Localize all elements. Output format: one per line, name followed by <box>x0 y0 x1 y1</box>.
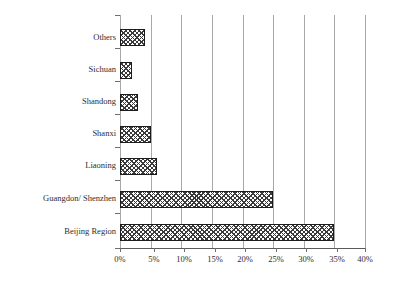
bar-chart: Others Sichuan Shandong Shanxi Liaoning … <box>0 0 403 285</box>
x-axis-line <box>120 248 366 249</box>
category-label-guangdon-shenzhen: Guangdon/ Shenzhen <box>4 193 116 203</box>
x-tick-label-25: 25% <box>261 254 291 264</box>
x-axis-tick <box>184 248 185 252</box>
bar-shandong <box>120 94 138 111</box>
gridline-15 <box>212 15 213 248</box>
plot-area <box>120 15 365 248</box>
gridline-20 <box>243 15 244 248</box>
gridline-25 <box>273 15 274 248</box>
x-axis-tick <box>154 248 155 252</box>
category-label-beijing-region: Beijing Region <box>4 226 116 236</box>
x-tick-label-35: 35% <box>322 254 352 264</box>
category-label-liaoning: Liaoning <box>4 160 116 170</box>
x-axis-tick <box>365 248 366 252</box>
category-label-sichuan: Sichuan <box>4 64 116 74</box>
x-tick-label-40: 40% <box>350 254 380 264</box>
x-tick-label-10: 10% <box>169 254 199 264</box>
gridline-30 <box>304 15 305 248</box>
bar-liaoning <box>120 158 157 175</box>
x-axis-tick <box>215 248 216 252</box>
category-label-shanxi: Shanxi <box>4 128 116 138</box>
x-axis-tick <box>245 248 246 252</box>
gridline-40 <box>365 15 366 248</box>
bar-sichuan <box>120 62 132 79</box>
x-axis-tick <box>306 248 307 252</box>
x-tick-label-15: 15% <box>200 254 230 264</box>
bar-shanxi <box>120 126 151 143</box>
x-axis-tick <box>337 248 338 252</box>
bar-beijing-region <box>120 224 334 241</box>
x-tick-label-30: 30% <box>291 254 321 264</box>
gridline-5 <box>151 15 152 248</box>
x-axis-tick <box>276 248 277 252</box>
category-label-others: Others <box>4 32 116 42</box>
x-axis-tick <box>120 248 121 252</box>
gridline-35 <box>334 15 335 248</box>
x-tick-label-5: 5% <box>139 254 169 264</box>
x-tick-label-20: 20% <box>230 254 260 264</box>
category-label-shandong: Shandong <box>4 96 116 106</box>
bar-others <box>120 29 145 46</box>
x-tick-label-0: 0% <box>105 254 135 264</box>
bar-guangdon-shenzhen <box>120 191 273 208</box>
gridline-10 <box>181 15 182 248</box>
